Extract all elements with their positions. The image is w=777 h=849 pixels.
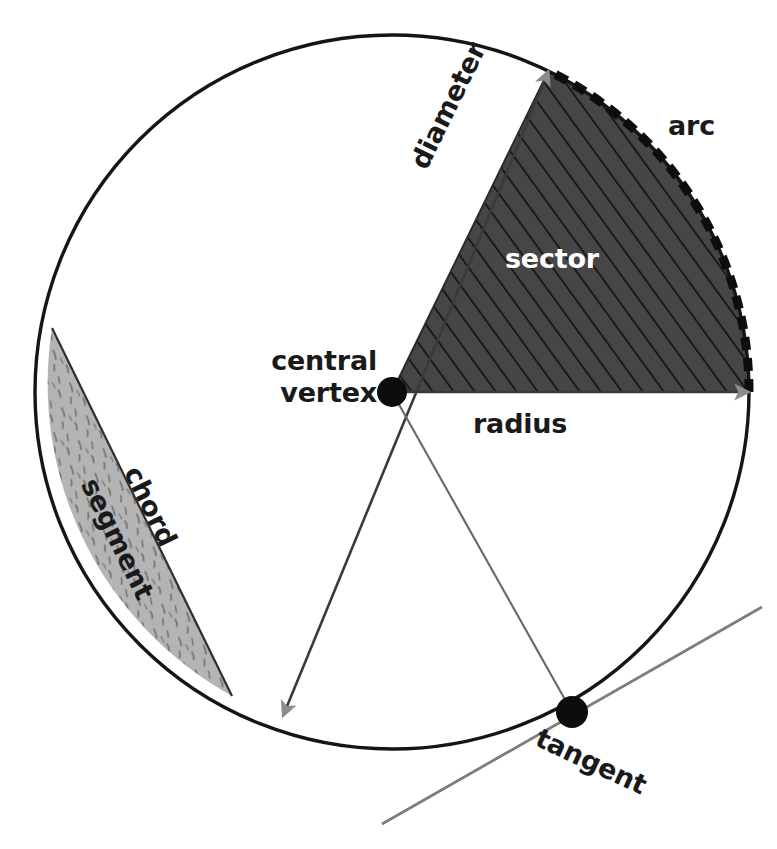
center-to-tangent-line: [392, 392, 572, 712]
label-radius: radius: [473, 408, 567, 440]
label-central-vertex-line-0: central: [247, 345, 377, 377]
diagram-canvas: centralvertex radius arc sector diameter…: [0, 0, 777, 849]
label-central-vertex-line-1: vertex: [247, 377, 377, 409]
tangent-point-dot: [556, 696, 588, 728]
central-vertex-dot: [377, 377, 407, 407]
label-sector: sector: [505, 243, 599, 275]
circle-diagram-svg: [0, 0, 777, 849]
label-arc: arc: [668, 110, 715, 142]
label-central-vertex: centralvertex: [247, 345, 377, 409]
